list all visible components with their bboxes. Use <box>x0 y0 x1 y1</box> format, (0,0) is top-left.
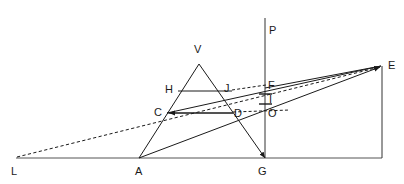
point-label-E: E <box>388 60 395 71</box>
ray-F-to-E <box>265 66 381 88</box>
point-label-H: H <box>165 84 173 95</box>
point-label-J: J <box>224 83 230 94</box>
point-label-O: O <box>268 108 277 119</box>
point-label-C: C <box>154 107 162 118</box>
chord-J-to-F-dashed <box>232 85 266 90</box>
geometry-figure <box>0 0 404 184</box>
point-label-G: G <box>258 166 267 177</box>
point-label-V: V <box>194 44 201 55</box>
point-label-L: L <box>11 166 17 177</box>
ray-L-to-E-dashed <box>17 67 380 157</box>
point-label-I: I <box>269 94 272 105</box>
point-label-D: D <box>234 108 242 119</box>
point-label-F: F <box>268 80 275 91</box>
point-label-A: A <box>135 166 142 177</box>
triangle-leg-A-V <box>139 64 199 158</box>
point-label-P: P <box>269 25 276 36</box>
diagram-canvas: L A G E V P H J F I C D O <box>0 0 404 184</box>
